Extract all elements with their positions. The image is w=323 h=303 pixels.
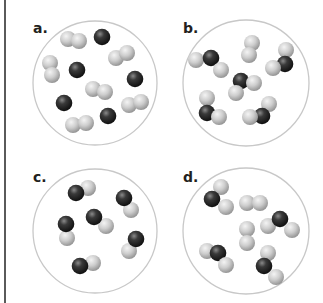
- light-atom: [246, 75, 262, 91]
- light-atom: [199, 90, 215, 106]
- panel-d: [183, 168, 309, 294]
- panel-label-c: c.: [33, 170, 47, 184]
- light-atom: [78, 115, 94, 131]
- dark-atom: [56, 95, 73, 112]
- light-atom: [119, 45, 135, 61]
- dark-atom: [128, 231, 145, 248]
- dark-atom: [272, 211, 289, 228]
- light-atom: [211, 109, 227, 125]
- dark-atom: [68, 185, 85, 202]
- light-atom: [239, 221, 255, 237]
- light-atom: [218, 257, 234, 273]
- molecule-diagram: [0, 0, 323, 303]
- panel-label-a: a.: [33, 21, 48, 35]
- light-atom: [284, 222, 300, 238]
- light-atom: [252, 195, 268, 211]
- light-atom: [268, 269, 284, 285]
- light-atom: [213, 62, 229, 78]
- light-atom: [133, 94, 149, 110]
- dark-atom: [256, 258, 273, 275]
- panel-b: [183, 20, 309, 146]
- light-atom: [278, 42, 294, 58]
- light-atom: [218, 199, 234, 215]
- light-atom: [44, 67, 60, 83]
- panel-a: [33, 21, 157, 145]
- light-atom: [239, 235, 255, 251]
- panel-label-b: b.: [183, 21, 198, 35]
- light-atom: [241, 47, 257, 63]
- panel-label-d: d.: [183, 170, 198, 184]
- dark-atom: [100, 108, 117, 125]
- light-atom: [97, 84, 113, 100]
- light-atom: [71, 33, 87, 49]
- dark-atom: [72, 258, 89, 275]
- dark-atom: [94, 29, 111, 46]
- dark-atom: [204, 191, 221, 208]
- light-atom: [242, 109, 258, 125]
- light-atom: [59, 230, 75, 246]
- dark-atom: [116, 190, 133, 207]
- dark-atom: [127, 71, 144, 88]
- light-atom: [188, 52, 204, 68]
- dark-atom: [86, 209, 103, 226]
- dark-atom: [69, 62, 86, 79]
- panel-c: [33, 169, 157, 293]
- light-atom: [265, 60, 281, 76]
- light-atom: [228, 85, 244, 101]
- dark-atom: [58, 216, 75, 233]
